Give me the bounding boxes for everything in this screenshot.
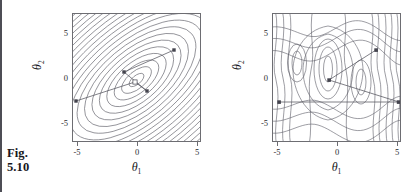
contour-svg-right bbox=[273, 14, 400, 141]
plot-area-right bbox=[272, 13, 401, 142]
x-axis-title-right-subscript: 1 bbox=[338, 167, 342, 176]
figure-page: Fig. 5.10 θ2 5 0 -5 bbox=[0, 0, 419, 192]
x-tick-mark-left-1 bbox=[137, 142, 138, 146]
x-tick-mark-left-0 bbox=[77, 142, 78, 146]
y-tick-label-right-2: -5 bbox=[250, 118, 268, 128]
x-tick-label-right-2: 5 bbox=[388, 147, 406, 157]
contour-svg-left bbox=[73, 14, 200, 141]
trajectory-marker-open-left bbox=[133, 80, 137, 84]
plot-area-left bbox=[72, 13, 201, 142]
y-axis-title-right-symbol: θ bbox=[230, 64, 244, 70]
x-axis-title-left: θ1 bbox=[72, 160, 201, 176]
contour-plot-right: θ2 5 0 -5 bbox=[208, 0, 408, 192]
x-tick-mark-left-2 bbox=[197, 142, 198, 146]
page-edge-rule bbox=[0, 0, 2, 192]
x-tick-mark-right-0 bbox=[277, 142, 278, 146]
y-axis-title-left-symbol: θ bbox=[30, 64, 44, 70]
y-tick-label-left-0: 5 bbox=[52, 28, 68, 38]
y-axis-title-right-subscript: 2 bbox=[237, 60, 246, 64]
x-axis-title-right: θ1 bbox=[272, 160, 401, 176]
y-tick-label-left-2: -5 bbox=[50, 118, 68, 128]
x-tick-label-left-2: 5 bbox=[188, 147, 206, 157]
y-axis-title-left: θ2 bbox=[30, 60, 46, 70]
y-axis-title-right: θ2 bbox=[230, 60, 246, 70]
y-tick-label-right-0: 5 bbox=[252, 28, 268, 38]
x-tick-mark-right-1 bbox=[337, 142, 338, 146]
trajectory-markers-right bbox=[277, 48, 400, 104]
y-tick-label-right-1: 0 bbox=[252, 73, 268, 83]
x-tick-mark-right-2 bbox=[397, 142, 398, 146]
y-tick-label-left-1: 0 bbox=[52, 73, 68, 83]
contour-plot-left: θ2 5 0 -5 bbox=[8, 0, 208, 192]
y-axis-title-left-subscript: 2 bbox=[37, 60, 46, 64]
x-tick-label-left-1: 0 bbox=[128, 147, 146, 157]
x-tick-label-left-0: -5 bbox=[68, 147, 86, 157]
x-axis-title-left-subscript: 1 bbox=[138, 167, 142, 176]
x-tick-label-right-1: 0 bbox=[328, 147, 346, 157]
x-tick-label-right-0: -5 bbox=[268, 147, 286, 157]
